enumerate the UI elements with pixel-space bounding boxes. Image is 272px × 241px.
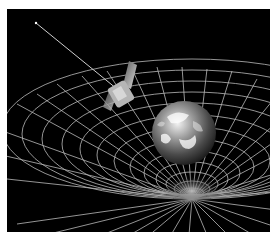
spacetime-illustration [7,9,270,232]
illustration-frame [7,9,270,232]
earth [152,101,216,165]
spacetime-grid [7,59,270,232]
gravity-well [162,175,222,207]
trail-start-dot [35,22,37,24]
orbit-trail [36,23,117,89]
